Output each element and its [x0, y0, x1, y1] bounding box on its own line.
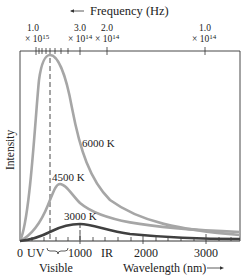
svg-text:× 1014: × 1014 — [192, 33, 217, 44]
svg-text:3.0: 3.0 — [74, 23, 86, 33]
x-tick-3000: 3000 — [194, 246, 218, 260]
intensity-label: Intensity — [4, 130, 17, 170]
wavelength-label: Wavelength (nm) — [123, 261, 206, 275]
frequency-axis-title: Frequency (Hz) — [70, 4, 169, 18]
arrow-right-icon — [207, 266, 224, 269]
svg-text:× 1014: × 1014 — [68, 33, 93, 44]
label-4500k: 4500 K — [52, 171, 85, 183]
top-tick-labels: 1.0 × 1015 3.0 × 1014 2.0 × 1014 1.0 × 1… — [25, 23, 217, 44]
arrow-left-icon — [70, 9, 74, 12]
curve-6000k — [20, 55, 240, 241]
x-tick-2000: 2000 — [134, 246, 158, 260]
uv-label: UV — [27, 246, 45, 260]
x-tick-0: 0 — [17, 246, 23, 260]
visible-label: Visible — [39, 261, 73, 275]
ir-label: IR — [101, 246, 113, 260]
svg-text:1.0: 1.0 — [27, 23, 39, 33]
label-3000k: 3000 K — [64, 210, 97, 222]
x-tick-1000: 1000 — [68, 246, 92, 260]
svg-text:× 1014: × 1014 — [95, 33, 120, 44]
svg-text:× 1015: × 1015 — [25, 33, 50, 44]
frequency-label: Frequency (Hz) — [90, 4, 169, 18]
label-6000k: 6000 K — [82, 137, 115, 149]
svg-text:1.0: 1.0 — [199, 23, 211, 33]
blackbody-chart: Frequency (Hz) 1.0 × 1015 3.0 × 1014 2.0… — [0, 0, 246, 280]
svg-text:2.0: 2.0 — [101, 23, 113, 33]
visible-brace — [47, 248, 68, 254]
